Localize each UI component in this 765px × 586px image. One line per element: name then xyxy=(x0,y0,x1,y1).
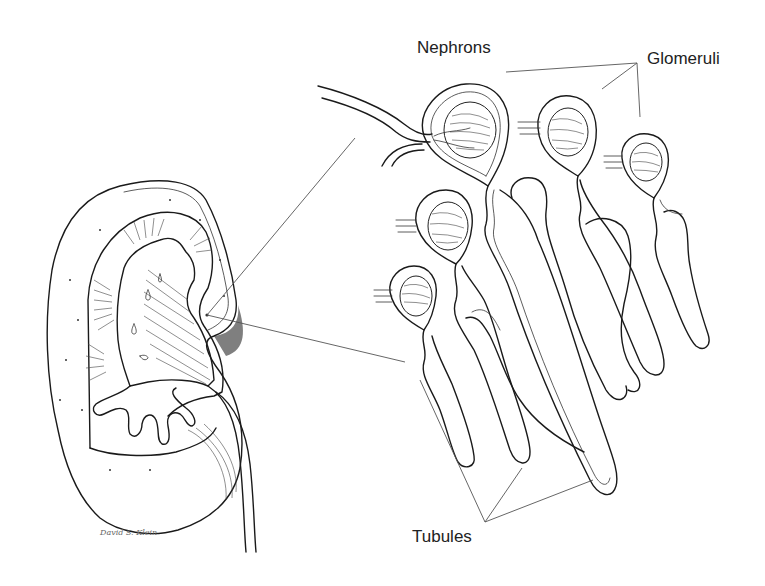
kidney-illustration xyxy=(47,181,256,552)
illustration xyxy=(0,0,765,586)
nephrons-illustration xyxy=(318,84,709,495)
label-nephrons: Nephrons xyxy=(417,38,491,58)
glomerulus-1 xyxy=(422,84,508,186)
tubules xyxy=(423,176,709,495)
label-tubules: Tubules xyxy=(412,527,472,547)
zoom-leader-upper xyxy=(207,138,355,315)
glomerulus-3 xyxy=(604,134,668,198)
glomerulus-4 xyxy=(396,190,472,264)
glomerulus-5 xyxy=(374,266,436,330)
kidney-nephron-diagram: Nephrons Glomeruli Tubules David S. Klei… xyxy=(0,0,765,586)
label-glomeruli: Glomeruli xyxy=(647,49,720,69)
glomerulus-2 xyxy=(518,96,596,176)
tubules-leaders xyxy=(420,380,593,522)
artist-signature: David S. Klein xyxy=(100,528,157,537)
